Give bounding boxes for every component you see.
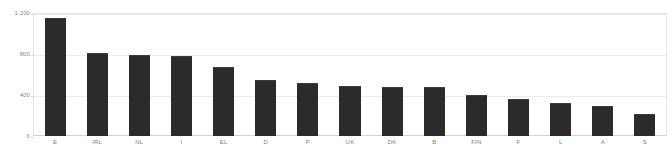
x-axis-tick-label: L — [540, 138, 582, 146]
bar-slot — [203, 14, 245, 136]
bar — [339, 86, 360, 136]
y-axis-tick-label: 400 — [0, 92, 30, 99]
bar — [592, 106, 613, 136]
bar-slot — [76, 14, 118, 136]
x-axis-tick-label: S — [624, 138, 666, 146]
bar — [466, 95, 487, 136]
bar-series — [34, 14, 666, 136]
bar-slot — [329, 14, 371, 136]
bar — [255, 80, 276, 136]
x-axis-tick-label: E — [34, 138, 76, 146]
x-axis-tick-label: NL — [118, 138, 160, 146]
bar — [508, 99, 529, 136]
bar-slot — [455, 14, 497, 136]
bar-slot — [624, 14, 666, 136]
bar-slot — [371, 14, 413, 136]
x-axis-tick-label: P — [287, 138, 329, 146]
y-axis-tick-label: 0 — [0, 133, 30, 140]
bar-slot — [540, 14, 582, 136]
x-axis-tick-label: B — [413, 138, 455, 146]
bar-slot — [497, 14, 539, 136]
bar-slot — [160, 14, 202, 136]
x-axis-tick-label: DK — [371, 138, 413, 146]
bar — [550, 103, 571, 136]
bar — [382, 87, 403, 136]
bar — [129, 55, 150, 136]
bar-slot — [287, 14, 329, 136]
y-axis-tick-label: 1,200 — [0, 10, 30, 17]
x-axis-tick-label: IRL — [76, 138, 118, 146]
bar-slot — [118, 14, 160, 136]
bar — [171, 56, 192, 136]
x-axis-tick-labels: EIRLNLIELDPUKDKBFINFLAS — [34, 138, 666, 152]
y-axis-tick-label: 800 — [0, 51, 30, 58]
bar — [213, 67, 234, 136]
bar-slot — [413, 14, 455, 136]
bar — [297, 83, 318, 136]
bar-chart: 04008001,200 EIRLNLIELDPUKDKBFINFLAS — [0, 0, 672, 163]
bar-slot — [34, 14, 76, 136]
x-axis-tick-label: EL — [203, 138, 245, 146]
x-axis-tick-label: UK — [329, 138, 371, 146]
bar — [424, 87, 445, 136]
bar — [45, 18, 66, 136]
bar — [87, 53, 108, 136]
x-axis-tick-label: FIN — [455, 138, 497, 146]
x-axis-tick-label: I — [160, 138, 202, 146]
x-axis-tick-label: D — [245, 138, 287, 146]
x-axis-tick-label: A — [582, 138, 624, 146]
bar — [634, 114, 655, 136]
bar-slot — [245, 14, 287, 136]
y-axis-tick-labels: 04008001,200 — [0, 0, 30, 163]
x-axis-tick-label: F — [497, 138, 539, 146]
bar-slot — [582, 14, 624, 136]
